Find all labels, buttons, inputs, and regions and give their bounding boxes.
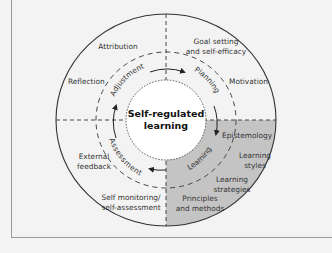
label-self-monitoring-1: Self monitoring/ xyxy=(101,193,161,202)
center-label-line2: learning xyxy=(144,120,188,131)
label-self-monitoring-2: self-assessment xyxy=(101,203,160,212)
label-learning-styles-2: styles xyxy=(244,161,266,170)
label-epistemology: Epistemology xyxy=(222,131,273,140)
center-label-line1: Self-regulated xyxy=(128,108,205,119)
label-learning-strategies-1: Learning xyxy=(216,175,248,184)
label-principles-2: and methods xyxy=(176,204,225,213)
label-attribution: Attribution xyxy=(98,42,138,51)
label-principles-1: Principles xyxy=(182,194,218,203)
label-learning-strategies-2: strategies xyxy=(214,185,251,194)
label-motivation: Motivation xyxy=(229,77,268,86)
label-goal-setting-1: Goal setting xyxy=(194,37,239,46)
label-goal-setting-2: and self-efficacy xyxy=(186,47,247,56)
label-external-feedback-1: External xyxy=(79,152,110,161)
label-reflection: Reflection xyxy=(68,77,105,86)
label-external-feedback-2: feedback xyxy=(77,162,112,171)
label-learning-styles-1: Learning xyxy=(239,151,271,160)
